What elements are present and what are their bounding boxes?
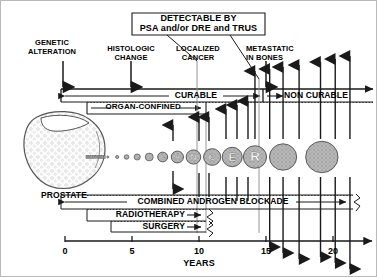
stage-label-histologic-change-line2: CHANGE — [94, 54, 168, 62]
tumor-seed — [90, 155, 92, 158]
stage-label-genetic-alteration-line1: GENETIC — [12, 39, 92, 47]
tumor-seed — [88, 155, 90, 158]
tumor-nodule: R — [243, 146, 266, 169]
tumor-nodule: E — [222, 147, 242, 166]
tumor-nodule — [124, 155, 129, 159]
tumor-seed — [95, 155, 97, 158]
band-label-combined-androgen-blockade: COMBINED ANDROGEN BLOCKADE — [129, 197, 297, 206]
stage-label-metastatic-in-bones-line2: IN BONES — [246, 54, 318, 62]
figure-canvas: CANCER — [0, 0, 377, 277]
tumor-nodule: N — [186, 150, 201, 164]
tumor-letter: C — [209, 151, 216, 162]
tumor-nodule: C — [204, 149, 221, 166]
band-label-radiotherapy: RADIOTHERAPY — [105, 210, 185, 219]
tumor-seed — [86, 155, 88, 158]
tumor-nodule: C — [158, 152, 168, 162]
tumor-growth-series: CANCER — [86, 141, 338, 172]
stage-label-histologic-change-line1: HISTOLOGIC — [94, 45, 168, 53]
tumor-nodule — [107, 156, 109, 158]
tumor-letter: R — [250, 149, 260, 164]
tumor-nodule: A — [171, 151, 183, 163]
stage-label-metastatic-in-bones-line1: METASTATIC — [246, 45, 318, 53]
tumor-nodule — [116, 155, 119, 158]
tumor-seed — [104, 155, 106, 158]
tumor-nodule — [306, 141, 338, 172]
band-label-organ-confined: ORGAN-CONFINED — [89, 103, 181, 111]
detection-callout-line2: PSA and/or DRE and TRUS — [130, 24, 267, 33]
axis-tick-label: 0 — [53, 247, 77, 256]
axis-title-years: YEARS — [169, 259, 229, 268]
tumor-seed — [101, 155, 103, 158]
organ-label-prostate: PROSTATE — [29, 191, 99, 200]
tumor-seed — [99, 155, 101, 158]
tumor-seed — [97, 155, 99, 158]
tumor-letter: A — [175, 153, 180, 160]
tumor-nodule — [145, 153, 153, 161]
axis-tick-label: 5 — [120, 247, 144, 256]
tumor-seed — [93, 155, 95, 158]
band-label-non-curable: NON CURABLE — [284, 91, 356, 100]
axis-tick-label: 10 — [187, 247, 211, 256]
axis-tick-label: 15 — [254, 247, 278, 256]
stage-label-genetic-alteration-line2: ALTERATION — [12, 48, 92, 56]
tumor-letter: C — [160, 153, 165, 160]
years-axis — [65, 236, 372, 242]
stage-stems — [63, 61, 266, 87]
prostate-organ — [24, 112, 105, 189]
band-label-surgery: SURGERY — [117, 222, 185, 231]
tumor-letter: E — [228, 151, 236, 163]
tumor-nodule — [269, 144, 296, 170]
axis-tick-label: 20 — [321, 247, 345, 256]
tumor-letter: N — [190, 152, 196, 162]
stage-label-localized-cancer-line1: LOCALIZED — [161, 45, 235, 53]
band-label-curable: CURABLE — [169, 91, 223, 100]
tumor-nodule — [134, 154, 140, 160]
stage-label-localized-cancer-line2: CANCER — [161, 54, 235, 62]
